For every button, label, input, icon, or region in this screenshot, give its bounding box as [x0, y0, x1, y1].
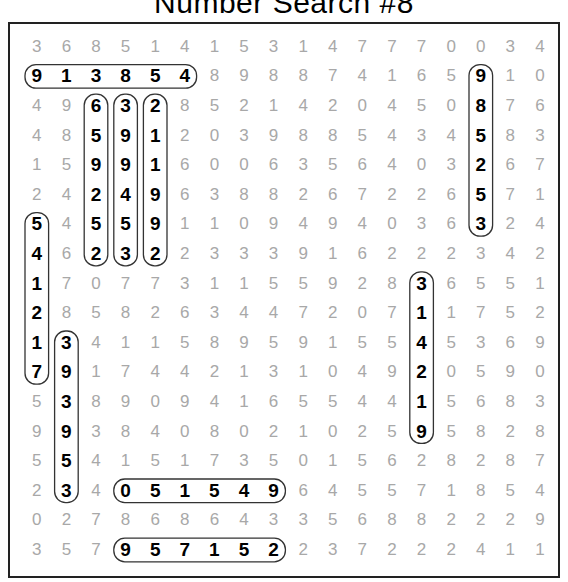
grid-cell[interactable]: 9 [52, 417, 82, 447]
grid-cell[interactable]: 8 [377, 506, 407, 536]
grid-cell[interactable]: 9 [22, 417, 52, 447]
grid-cell[interactable]: 2 [466, 506, 496, 536]
grid-cell[interactable]: 8 [496, 121, 526, 151]
grid-cell[interactable]: 2 [436, 506, 466, 536]
grid-cell[interactable]: 2 [496, 210, 526, 240]
grid-cell[interactable]: 1 [170, 476, 200, 506]
grid-cell[interactable]: 4 [229, 298, 259, 328]
grid-cell[interactable]: 4 [407, 328, 437, 358]
grid-cell[interactable]: 0 [81, 269, 111, 299]
grid-cell[interactable]: 9 [52, 91, 82, 121]
grid-cell[interactable]: 9 [318, 269, 348, 299]
grid-cell[interactable]: 0 [348, 91, 378, 121]
grid-cell[interactable]: 8 [229, 180, 259, 210]
grid-cell[interactable]: 9 [259, 476, 289, 506]
grid-cell[interactable]: 0 [348, 298, 378, 328]
grid-cell[interactable]: 5 [81, 210, 111, 240]
grid-cell[interactable]: 9 [259, 121, 289, 151]
grid-cell[interactable]: 1 [288, 358, 318, 388]
grid-cell[interactable]: 7 [496, 180, 526, 210]
grid-cell[interactable]: 5 [377, 328, 407, 358]
grid-cell[interactable]: 3 [52, 328, 82, 358]
grid-cell[interactable]: 7 [407, 32, 437, 62]
grid-cell[interactable]: 9 [140, 180, 170, 210]
grid-cell[interactable]: 7 [466, 298, 496, 328]
grid-cell[interactable]: 0 [229, 150, 259, 180]
grid-cell[interactable]: 4 [81, 446, 111, 476]
grid-cell[interactable]: 8 [436, 446, 466, 476]
grid-cell[interactable]: 1 [22, 328, 52, 358]
grid-cell[interactable]: 0 [436, 358, 466, 388]
grid-cell[interactable]: 8 [288, 121, 318, 151]
grid-cell[interactable]: 3 [318, 535, 348, 565]
grid-cell[interactable]: 4 [377, 91, 407, 121]
grid-cell[interactable]: 9 [525, 328, 555, 358]
grid-cell[interactable]: 9 [52, 358, 82, 388]
grid-cell[interactable]: 2 [348, 269, 378, 299]
grid-cell[interactable]: 4 [318, 476, 348, 506]
grid-cell[interactable]: 7 [52, 269, 82, 299]
grid-cell[interactable]: 5 [496, 476, 526, 506]
grid-cell[interactable]: 5 [348, 446, 378, 476]
grid-cell[interactable]: 8 [170, 506, 200, 536]
grid-cell[interactable]: 1 [200, 535, 230, 565]
grid-cell[interactable]: 2 [407, 535, 437, 565]
grid-cell[interactable]: 7 [288, 298, 318, 328]
grid-cell[interactable]: 4 [111, 180, 141, 210]
grid-cell[interactable]: 4 [348, 358, 378, 388]
grid-cell[interactable]: 3 [22, 535, 52, 565]
grid-cell[interactable]: 2 [436, 239, 466, 269]
grid-cell[interactable]: 0 [22, 506, 52, 536]
grid-cell[interactable]: 3 [288, 150, 318, 180]
grid-cell[interactable]: 5 [140, 476, 170, 506]
grid-cell[interactable]: 3 [111, 91, 141, 121]
grid-cell[interactable]: 0 [229, 210, 259, 240]
grid-cell[interactable]: 1 [436, 476, 466, 506]
grid-cell[interactable]: 2 [525, 239, 555, 269]
grid-cell[interactable]: 4 [466, 535, 496, 565]
grid-cell[interactable]: 0 [229, 417, 259, 447]
grid-cell[interactable]: 2 [22, 180, 52, 210]
grid-cell[interactable]: 4 [140, 358, 170, 388]
grid-cell[interactable]: 4 [348, 210, 378, 240]
grid-cell[interactable]: 3 [407, 121, 437, 151]
grid-cell[interactable]: 8 [81, 32, 111, 62]
grid-cell[interactable]: 8 [170, 91, 200, 121]
grid-cell[interactable]: 1 [200, 210, 230, 240]
grid-cell[interactable]: 1 [111, 446, 141, 476]
grid-cell[interactable]: 5 [466, 269, 496, 299]
grid-cell[interactable]: 4 [22, 121, 52, 151]
grid-cell[interactable]: 0 [525, 62, 555, 92]
grid-cell[interactable]: 2 [407, 446, 437, 476]
grid-cell[interactable]: 6 [81, 91, 111, 121]
grid-cell[interactable]: 7 [525, 446, 555, 476]
grid-cell[interactable]: 2 [377, 239, 407, 269]
grid-cell[interactable]: 1 [525, 535, 555, 565]
grid-cell[interactable]: 4 [200, 387, 230, 417]
grid-cell[interactable]: 1 [140, 121, 170, 151]
grid-cell[interactable]: 3 [259, 239, 289, 269]
grid-cell[interactable]: 6 [436, 269, 466, 299]
grid-cell[interactable]: 3 [170, 269, 200, 299]
grid-cell[interactable]: 9 [111, 150, 141, 180]
grid-cell[interactable]: 9 [288, 328, 318, 358]
grid-cell[interactable]: 8 [52, 121, 82, 151]
grid-cell[interactable]: 3 [52, 476, 82, 506]
grid-cell[interactable]: 5 [318, 150, 348, 180]
grid-cell[interactable]: 5 [200, 91, 230, 121]
grid-cell[interactable]: 5 [466, 180, 496, 210]
grid-cell[interactable]: 2 [140, 239, 170, 269]
grid-cell[interactable]: 8 [259, 180, 289, 210]
grid-cell[interactable]: 5 [140, 535, 170, 565]
grid-cell[interactable]: 5 [81, 298, 111, 328]
grid-cell[interactable]: 8 [318, 121, 348, 151]
grid-cell[interactable]: 5 [436, 328, 466, 358]
grid-cell[interactable]: 0 [200, 121, 230, 151]
grid-cell[interactable]: 6 [170, 180, 200, 210]
grid-cell[interactable]: 5 [52, 535, 82, 565]
grid-cell[interactable]: 3 [200, 180, 230, 210]
grid-cell[interactable]: 4 [318, 32, 348, 62]
grid-cell[interactable]: 8 [200, 328, 230, 358]
grid-cell[interactable]: 7 [200, 446, 230, 476]
grid-cell[interactable]: 5 [22, 210, 52, 240]
